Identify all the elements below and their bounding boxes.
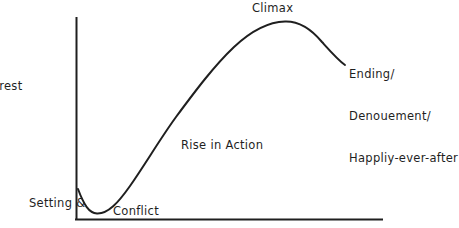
annotation-setting-line-1: Setting & [29,196,95,210]
annotation-ending-line-1: Ending/ [349,67,458,81]
annotation-ending-denouement: Ending/ Denouement/ Happliy-ever-after [349,39,458,193]
annotation-conflict: Conflict [113,204,159,218]
annotation-ending-line-3: Happliy-ever-after [349,151,458,165]
annotation-rise-in-action: Rise in Action [181,138,263,152]
y-axis-label: terest [0,79,22,93]
story-arc-figure: terest Setting & Characters Conflict Ris… [0,0,459,228]
annotation-setting-and-characters: Setting & Characters [29,168,95,228]
annotation-climax: Climax [252,1,293,15]
story-arc-curve [78,21,345,213]
annotation-ending-line-2: Denouement/ [349,109,458,123]
